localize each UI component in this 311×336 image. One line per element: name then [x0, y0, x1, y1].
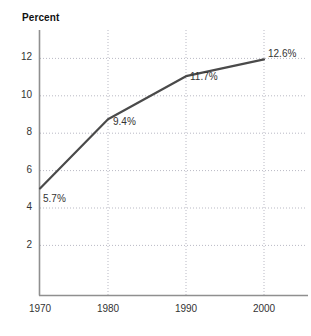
x-tick-label-2000: 2000	[242, 303, 286, 314]
x-tick-label-1990: 1990	[164, 303, 208, 314]
y-tick-label-6: 6	[10, 164, 32, 175]
line-chart: Percent 2 4 6 8 10 12 1970 1980 1990 200…	[0, 0, 311, 336]
horizontal-gridlines	[40, 58, 306, 245]
data-label-1970: 5.7%	[43, 193, 66, 204]
data-label-1990: 11.7%	[190, 71, 218, 82]
data-label-1980: 9.4%	[113, 116, 136, 127]
y-tick-label-4: 4	[10, 201, 32, 212]
x-tick-label-1980: 1980	[86, 303, 130, 314]
data-label-2000: 12.6%	[268, 48, 296, 59]
y-tick-label-10: 10	[10, 89, 32, 100]
y-tick-label-2: 2	[10, 239, 32, 250]
plot-area	[0, 0, 311, 336]
y-tick-label-8: 8	[10, 126, 32, 137]
data-series-line	[40, 59, 264, 188]
vertical-gridlines	[108, 30, 264, 295]
y-tick-label-12: 12	[10, 51, 32, 62]
x-tick-label-1970: 1970	[18, 303, 62, 314]
